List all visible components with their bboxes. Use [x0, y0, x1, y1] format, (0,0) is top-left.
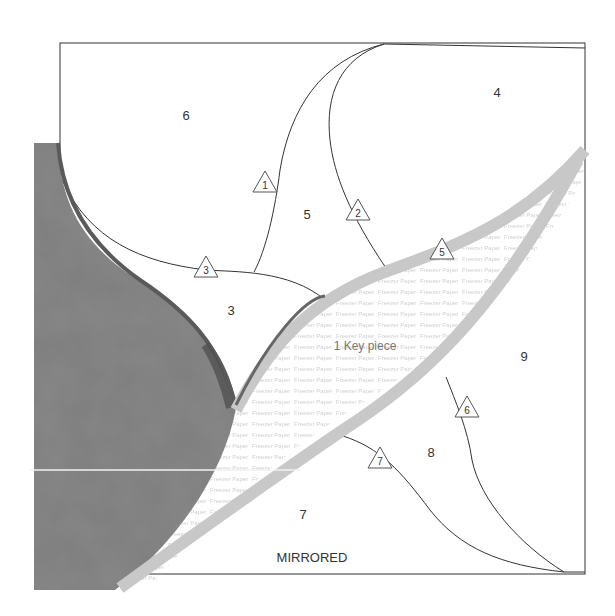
region-label-3: 3	[227, 303, 234, 318]
triangle-label-2: 2	[355, 208, 361, 219]
region-label-9: 9	[520, 349, 527, 364]
region-label-6: 6	[182, 108, 189, 123]
region-label-4: 4	[493, 85, 500, 100]
mirrored-label: MIRRORED	[277, 550, 348, 565]
region-label-7: 7	[299, 507, 306, 522]
pattern-canvas: Freezer Paper	[0, 0, 615, 616]
triangle-label-6: 6	[464, 405, 470, 416]
region-label-5: 5	[303, 207, 310, 222]
triangle-label-5: 5	[439, 247, 445, 258]
region-label-8: 8	[427, 445, 434, 460]
triangle-label-3: 3	[203, 265, 209, 276]
triangle-label-1: 1	[262, 180, 268, 191]
key-piece-label: 1 Key piece	[334, 339, 397, 353]
triangle-label-7: 7	[377, 456, 383, 467]
